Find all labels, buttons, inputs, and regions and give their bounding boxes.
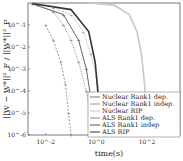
svg-text:+: + bbox=[61, 12, 65, 18]
chart: 10^-210^010^210^-110^-210^-310^-410^-510… bbox=[0, 0, 183, 161]
svg-text:+: + bbox=[51, 37, 55, 43]
svg-text:+: + bbox=[44, 22, 48, 28]
svg-text:+: + bbox=[59, 59, 63, 65]
y-axis-label: ||W − W*||²_F / ||W*||²_F bbox=[2, 19, 11, 119]
x-tick-label: 10^0 bbox=[88, 138, 105, 145]
svg-text:+: + bbox=[66, 110, 70, 116]
svg-text:+: + bbox=[69, 132, 73, 138]
x-tick-label: 10^-2 bbox=[36, 138, 55, 145]
svg-text:+: + bbox=[84, 66, 88, 72]
svg-text:+: + bbox=[81, 29, 85, 35]
svg-text:+: + bbox=[69, 37, 73, 43]
svg-text:+: + bbox=[63, 81, 67, 87]
x-tick-label: 10^2 bbox=[139, 138, 156, 145]
svg-text:+: + bbox=[61, 22, 65, 28]
legend-entry: ALS RIP bbox=[101, 128, 130, 136]
svg-text:+: + bbox=[77, 37, 81, 43]
plot-area: 10^-210^010^210^-110^-210^-310^-410^-510… bbox=[2, 1, 180, 158]
x-axis-label: time(s) bbox=[95, 149, 123, 158]
svg-text:+: + bbox=[77, 59, 81, 65]
y-tick-label: 10^-6 bbox=[7, 131, 26, 138]
